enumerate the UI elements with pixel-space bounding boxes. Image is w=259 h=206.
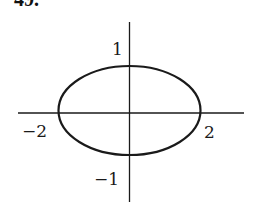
- y-tick-label-1: 1: [112, 39, 123, 59]
- x-tick-label-neg2: −2: [22, 121, 47, 141]
- y-tick-label-neg1: −1: [94, 169, 119, 189]
- problem-number: 49.: [14, 0, 39, 10]
- x-tick-label-2: 2: [204, 122, 215, 142]
- ellipse-plot: 49. 1 −2 2 −1: [0, 0, 259, 206]
